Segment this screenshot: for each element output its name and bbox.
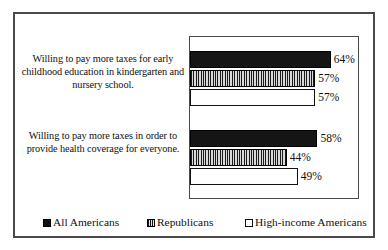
bar-high-income-americans bbox=[190, 168, 298, 185]
bar-republicans bbox=[190, 70, 315, 87]
legend-label: All Americans bbox=[53, 216, 119, 228]
bar-value-label: 64% bbox=[331, 51, 355, 68]
legend-item-high-income-americans: High-income Americans bbox=[245, 212, 367, 232]
legend-swatch-empty-icon bbox=[245, 219, 253, 227]
legend-item-all-americans: All Americans bbox=[43, 212, 119, 232]
bar-row: 44% bbox=[190, 149, 358, 166]
bar-value-label: 57% bbox=[315, 70, 339, 87]
bar-value-label: 58% bbox=[317, 130, 341, 147]
bar-high-income-americans bbox=[190, 89, 315, 106]
category-label-health-coverage: Willing to pay more taxes in order to pr… bbox=[17, 129, 189, 155]
chart-legend: All Americans Republicans High-income Am… bbox=[29, 212, 369, 232]
bar-row: 58% bbox=[190, 130, 358, 147]
plot-area: 64% 57% 57% 58% 44% 49% bbox=[189, 36, 359, 199]
chart-figure-frame: Willing to pay more taxes for early chil… bbox=[13, 12, 375, 238]
legend-label: High-income Americans bbox=[255, 216, 367, 228]
legend-swatch-solid-icon bbox=[43, 219, 51, 227]
legend-item-republicans: Republicans bbox=[147, 212, 213, 232]
bar-value-label: 49% bbox=[298, 168, 322, 185]
category-label-column: Willing to pay more taxes for early chil… bbox=[17, 24, 189, 209]
bar-row: 57% bbox=[190, 70, 358, 87]
bar-all-americans bbox=[190, 130, 317, 147]
bar-value-label: 57% bbox=[315, 89, 339, 106]
legend-label: Republicans bbox=[157, 216, 213, 228]
bar-value-label: 44% bbox=[287, 149, 311, 166]
bar-all-americans bbox=[190, 51, 331, 68]
category-label-early-childhood-education: Willing to pay more taxes for early chil… bbox=[17, 52, 189, 92]
bar-row: 57% bbox=[190, 89, 358, 106]
legend-swatch-striped-icon bbox=[147, 219, 155, 227]
bar-republicans bbox=[190, 149, 287, 166]
bar-row: 49% bbox=[190, 168, 358, 185]
bar-group-health-coverage: 58% 44% 49% bbox=[190, 130, 358, 187]
bar-group-early-childhood-education: 64% 57% 57% bbox=[190, 51, 358, 108]
bar-row: 64% bbox=[190, 51, 358, 68]
